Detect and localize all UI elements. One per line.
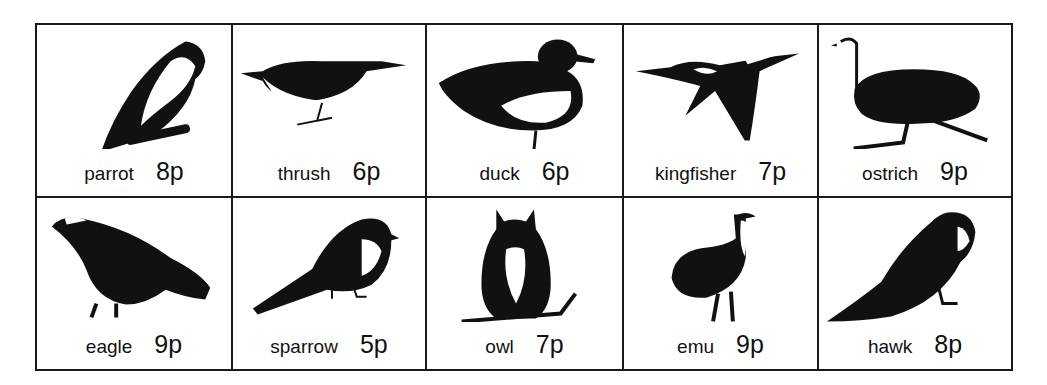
bird-price: 6p [542,157,570,186]
bird-price: 7p [758,157,786,186]
bird-name: thrush [278,163,331,185]
eagle-icon [37,204,231,322]
bird-label: thrush 6p [233,157,425,186]
bird-card-ostrich: ostrich 9p [819,25,1011,198]
bird-price: 6p [353,157,381,186]
bird-card-duck: duck 6p [427,25,624,198]
bird-price: 9p [154,330,182,359]
bird-name: hawk [868,336,912,358]
bird-label: eagle 9p [37,330,231,359]
bird-card-sparrow: sparrow 5p [233,198,427,369]
bird-card-hawk: hawk 8p [819,198,1011,369]
bird-price: 5p [360,330,388,359]
bird-name: ostrich [862,163,918,185]
bird-name: emu [677,336,714,358]
bird-label: sparrow 5p [233,330,425,359]
bird-card-kingfisher: kingfisher 7p [624,25,819,198]
bird-price: 9p [940,157,968,186]
ostrich-icon [819,31,1011,149]
bird-price: 7p [536,330,564,359]
thrush-icon [233,31,425,149]
duck-icon [427,31,622,149]
bird-label: owl 7p [427,330,622,359]
bird-card-thrush: thrush 6p [233,25,427,198]
bird-label: hawk 8p [819,330,1011,359]
bird-name: parrot [84,163,134,185]
sparrow-icon [233,204,425,322]
bird-name: kingfisher [655,163,736,185]
bird-price: 8p [156,157,184,186]
bird-card-owl: owl 7p [427,198,624,369]
bird-name: owl [485,336,514,358]
bird-price: 8p [934,330,962,359]
parrot-icon [37,31,231,149]
bird-name: duck [480,163,520,185]
hawk-icon [819,204,1011,322]
emu-icon [624,204,817,322]
bird-label: ostrich 9p [819,157,1011,186]
owl-icon [427,204,622,322]
bird-label: emu 9p [624,330,817,359]
bird-card-parrot: parrot 8p [37,25,233,198]
bird-label: parrot 8p [37,157,231,186]
bird-card-emu: emu 9p [624,198,819,369]
bird-price: 9p [736,330,764,359]
bird-name: sparrow [270,336,338,358]
bird-card-eagle: eagle 9p [37,198,233,369]
bird-name: eagle [86,336,133,358]
kingfisher-icon [624,31,817,149]
bird-label: duck 6p [427,157,622,186]
bird-label: kingfisher 7p [624,157,817,186]
bird-price-grid: parrot 8p thrush 6p [35,23,1013,371]
